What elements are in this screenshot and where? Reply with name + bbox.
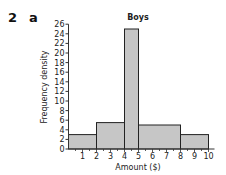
x-tick-label: 7 xyxy=(164,152,169,161)
y-axis-label: Frequency density xyxy=(40,50,49,123)
histogram-bar xyxy=(181,135,209,149)
y-tick-label: 12 xyxy=(54,87,64,96)
y-tick-label: 16 xyxy=(54,68,64,77)
y-tick-label: 8 xyxy=(59,107,64,116)
y-tick-label: 4 xyxy=(59,126,64,135)
x-tick-label: 6 xyxy=(150,152,155,161)
x-tick-label: 10 xyxy=(203,152,213,161)
x-tick-label: 4 xyxy=(122,152,127,161)
x-tick-label: 5 xyxy=(136,152,141,161)
y-tick-label: 18 xyxy=(54,59,64,68)
y-tick-label: 20 xyxy=(54,49,64,58)
y-tick-label: 24 xyxy=(54,30,64,39)
x-tick-label: 3 xyxy=(108,152,113,161)
x-tick-label: 9 xyxy=(192,152,197,161)
histogram-bar xyxy=(139,125,181,149)
y-tick-label: 26 xyxy=(54,20,64,29)
x-axis-label: Amount ($) xyxy=(115,163,160,172)
y-tick-label: 2 xyxy=(59,135,64,144)
y-tick-label: 22 xyxy=(54,39,64,48)
y-axis: 02468101214161820222426 xyxy=(54,20,68,154)
histogram-bars xyxy=(69,29,209,149)
y-tick-label: 14 xyxy=(54,78,64,87)
y-tick-label: 6 xyxy=(59,116,64,125)
y-tick-label: 10 xyxy=(54,97,64,106)
x-tick-label: 1 xyxy=(80,152,85,161)
x-axis: 12345678910 xyxy=(69,149,215,161)
x-tick-label: 2 xyxy=(94,152,99,161)
chart-title: Boys xyxy=(127,13,149,22)
y-tick-label: 0 xyxy=(59,145,64,154)
histogram-bar xyxy=(69,135,97,149)
histogram-bar xyxy=(97,123,125,149)
histogram-bar xyxy=(125,29,139,149)
histogram-chart: Boys 02468101214161820222426 12345678910… xyxy=(0,0,226,175)
x-tick-label: 8 xyxy=(178,152,183,161)
